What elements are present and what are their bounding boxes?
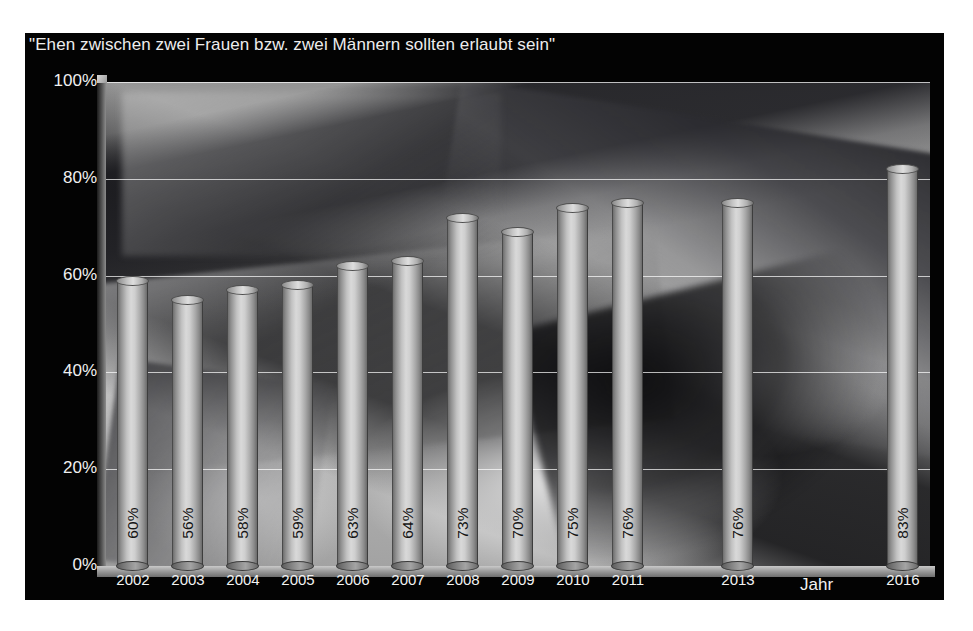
gridline [105,179,930,180]
bar-value-label: 76% [619,507,637,539]
bar-value-label: 56% [179,507,197,539]
bar: 83% [887,164,918,566]
x-axis-tick-label: 2009 [488,571,548,588]
bar-value-label: 63% [344,507,362,539]
bar-foot-ellipse [171,561,204,571]
bar-foot-ellipse [446,561,479,571]
bar-value-label: 58% [234,507,252,539]
x-axis-tick-label: 2007 [378,571,438,588]
bar-top-ellipse [171,295,204,305]
bar: 56% [172,295,203,566]
bar-foot-ellipse [391,561,424,571]
bar-value-label: 73% [454,507,472,539]
bar-foot-ellipse [886,561,919,571]
bar-top-ellipse [611,198,644,208]
bar-value-label: 76% [729,507,747,539]
bar-foot-ellipse [721,561,754,571]
bar-value-label: 83% [894,507,912,539]
y-axis-tick-label: 40% [63,361,97,381]
x-axis-tick-label: 2016 [873,571,933,588]
y-axis-tick-label: 0% [72,555,97,575]
bar-top-ellipse [281,280,314,290]
bar-value-label: 75% [564,507,582,539]
bar-top-ellipse [886,164,919,174]
y-axis-tick-label: 80% [63,168,97,188]
bar: 60% [117,276,148,566]
bar: 70% [502,227,533,566]
bar-foot-ellipse [556,561,589,571]
y-axis-tick-label: 20% [63,458,97,478]
x-axis-tick-label: 2011 [598,571,658,588]
y-axis: 100%80%60%40%20%0% [25,33,97,600]
bar: 59% [282,280,313,566]
bar: 76% [722,198,753,566]
bar-top-ellipse [391,256,424,266]
bar-foot-ellipse [226,561,259,571]
y-axis-tick-label: 100% [54,71,97,91]
bar-foot-ellipse [281,561,314,571]
x-axis-tick-label: 2005 [268,571,328,588]
bar-foot-ellipse [116,561,149,571]
x-axis-tick-label: 2003 [158,571,218,588]
bar: 64% [392,256,423,566]
bar-top-ellipse [446,213,479,223]
x-axis-tick-label: 2002 [103,571,163,588]
bar: 73% [447,213,478,566]
chart-left-wall-top [97,75,107,83]
gridline [105,82,930,83]
y-axis-tick-label: 60% [63,265,97,285]
bar: 58% [227,285,258,566]
bar-value-label: 60% [124,507,142,539]
bar-value-label: 64% [399,507,417,539]
bar: 76% [612,198,643,566]
bar-foot-ellipse [611,561,644,571]
x-axis-tick-label: 2008 [433,571,493,588]
bar-value-label: 70% [509,507,527,539]
bar-top-ellipse [501,227,534,237]
bar: 75% [557,203,588,566]
chart-title: "Ehen zwischen zwei Frauen bzw. zwei Män… [29,35,555,55]
chart-screenshot: "Ehen zwischen zwei Frauen bzw. zwei Män… [0,0,973,631]
x-axis-tick-label: 2010 [543,571,603,588]
bar-top-ellipse [116,276,149,286]
bar-top-ellipse [721,198,754,208]
x-axis-tick-label: 2013 [708,571,768,588]
x-axis-tick-label: 2004 [213,571,273,588]
chart-left-wall [97,75,106,567]
bar-top-ellipse [226,285,259,295]
bar-foot-ellipse [501,561,534,571]
bar-top-ellipse [336,261,369,271]
bar: 63% [337,261,368,566]
bar-foot-ellipse [336,561,369,571]
x-axis-title: Jahr [800,575,833,595]
bar-top-ellipse [556,203,589,213]
x-axis-tick-label: 2006 [323,571,383,588]
bar-value-label: 59% [289,507,307,539]
chart-panel: "Ehen zwischen zwei Frauen bzw. zwei Män… [25,33,944,600]
